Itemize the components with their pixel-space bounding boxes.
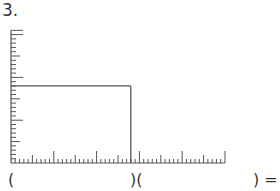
equation-equals: ) = — [253, 170, 278, 189]
equation-open-paren: ( — [8, 170, 14, 189]
equation-row: ( )( ) = — [0, 170, 280, 191]
equation-middle-parens: )( — [130, 170, 142, 189]
area-model-grid — [0, 0, 280, 170]
